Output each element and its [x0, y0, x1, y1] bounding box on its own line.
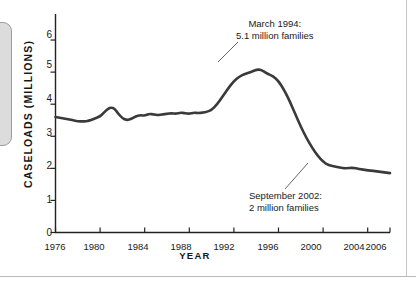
- page-bottom-rule: [0, 276, 416, 277]
- figure-page: CASELOADS (MILLIONS) YEAR 6 5 4 3 2 1 0 …: [0, 0, 416, 286]
- line-chart: CASELOADS (MILLIONS) YEAR 6 5 4 3 2 1 0 …: [0, 0, 406, 276]
- peak-leader-line: [218, 42, 238, 62]
- trough-leader-line: [285, 163, 308, 189]
- y-tick-marks: [51, 40, 56, 232]
- x-tick-marks: [56, 228, 391, 233]
- page-right-rule: [406, 0, 407, 276]
- plot-svg: [0, 0, 406, 276]
- caseload-line: [56, 70, 391, 174]
